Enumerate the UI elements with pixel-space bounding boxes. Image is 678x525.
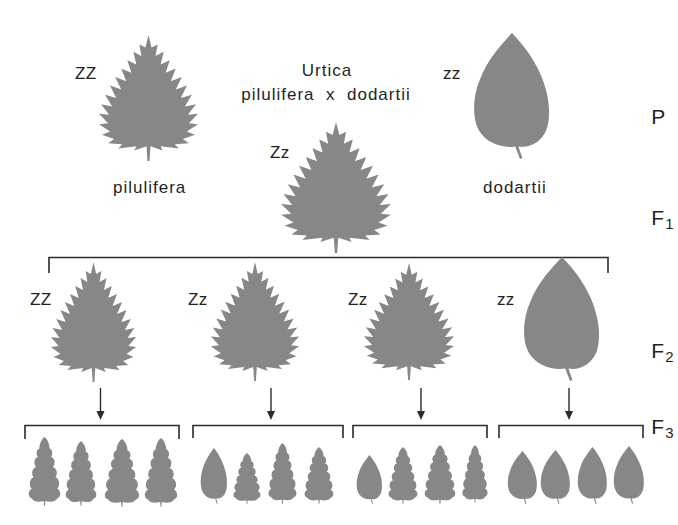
leaf-f3-g1-2 <box>66 441 97 506</box>
leaf-f1-hybrid <box>281 122 391 253</box>
generation-subscript: 2 <box>665 348 673 365</box>
f3-bracket-1 <box>25 426 179 440</box>
leaf-f3-g3-4 <box>462 445 487 503</box>
leaf-f3-g1-1 <box>29 437 61 506</box>
leaf-f3-g1-4 <box>145 438 177 507</box>
generation-label-f1: F1 <box>628 186 674 255</box>
f3-bracket-4 <box>499 426 643 439</box>
generation-letter: F <box>651 415 664 438</box>
urtica-inheritance-diagram: Urtica pilulifera x dodartii ZZ pilulife… <box>0 0 678 525</box>
leaf-parent-dodartii <box>474 33 549 159</box>
leaf-f3-g2-3 <box>269 443 297 504</box>
arrow-down-icon <box>267 388 275 420</box>
leaf-f3-g2-2 <box>234 453 261 504</box>
genotype-f2-2: Zz <box>188 291 207 308</box>
genotype-f1: Zz <box>270 144 289 161</box>
leaf-f3-g4-1 <box>508 451 537 504</box>
genotype-f2-4: zz <box>497 291 515 308</box>
genotype-parent-dodartii: zz <box>443 65 461 82</box>
generation-label-p: P <box>628 85 666 154</box>
leaf-f3-g3-1 <box>357 455 382 504</box>
cross-title-genus: Urtica <box>217 62 437 79</box>
generation-subscript: 1 <box>665 215 673 232</box>
leaf-f3-g1-3 <box>105 439 139 507</box>
generation-label-f2: F2 <box>628 319 674 388</box>
genotype-f2-1: ZZ <box>30 291 51 308</box>
leaf-f3-g2-1 <box>201 448 227 504</box>
cross-title-species: pilulifera x dodartii <box>216 86 436 103</box>
leaf-parent-pilulifera <box>99 35 198 161</box>
species-label-pilulifera: pilulifera <box>113 179 186 196</box>
leaf-f3-g3-2 <box>389 447 418 504</box>
arrow-down-icon <box>97 388 105 420</box>
species-label-dodartii: dodartii <box>483 179 547 196</box>
generation-label-f3: F3 <box>628 395 674 464</box>
f3-bracket-3 <box>353 426 487 439</box>
generation-letter: P <box>651 105 665 128</box>
leaf-f3-g4-3 <box>578 447 607 504</box>
leaf-f2-1 <box>51 262 136 382</box>
leaf-f2-3 <box>364 263 454 380</box>
leaf-f3-g2-4 <box>305 447 334 504</box>
f3-bracket-2 <box>193 426 343 439</box>
genotype-parent-pilulifera: ZZ <box>75 65 96 82</box>
generation-subscript: 3 <box>665 424 673 441</box>
leaf-f3-g4-2 <box>541 450 570 504</box>
generation-letter: F <box>651 339 664 362</box>
leaf-f2-2 <box>211 262 299 381</box>
leaf-f2-4 <box>524 257 599 381</box>
f2-bracket <box>49 258 608 274</box>
generation-letter: F <box>651 206 664 229</box>
arrow-down-icon <box>565 388 573 420</box>
arrow-down-icon <box>417 388 425 420</box>
genotype-f2-3: Zz <box>348 291 367 308</box>
leaf-f3-g3-3 <box>425 445 456 504</box>
